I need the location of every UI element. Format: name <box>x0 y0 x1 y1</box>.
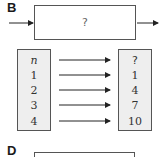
output-header: ? <box>119 55 151 67</box>
input-cell: 3 <box>18 100 50 112</box>
output-cell: 10 <box>119 116 151 128</box>
output-cell: 4 <box>119 85 151 97</box>
panel-d-box <box>34 152 135 157</box>
input-cell: 4 <box>18 116 50 128</box>
panel-label-d: D <box>7 143 16 157</box>
input-column-box: n 1 2 3 4 <box>17 49 51 131</box>
input-cell: 2 <box>18 85 50 97</box>
output-cell: 1 <box>119 70 151 82</box>
input-header: n <box>18 55 50 67</box>
output-cell: 7 <box>119 100 151 112</box>
input-cell: 1 <box>18 70 50 82</box>
output-column-box: ? 1 4 7 10 <box>118 49 152 131</box>
